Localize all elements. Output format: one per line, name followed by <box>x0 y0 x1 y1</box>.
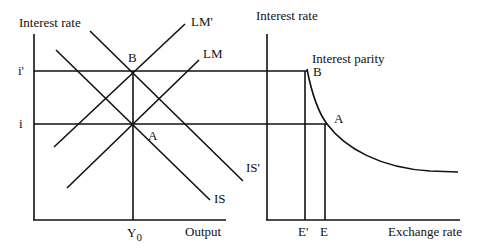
lm-prime-curve <box>54 24 185 147</box>
tick-i: i <box>19 116 23 131</box>
is-prime-label: IS' <box>246 160 260 175</box>
point-b-right: B <box>313 64 322 79</box>
interest-parity-curve <box>307 69 458 172</box>
interest-parity-label: Interest parity <box>312 51 385 66</box>
tick-e: E <box>320 224 328 239</box>
lm-prime-label: LM' <box>191 14 213 29</box>
tick-i-prime: i' <box>18 63 24 78</box>
tick-y0: Y0 <box>127 225 142 243</box>
is-lm-interest-parity-diagram: Interest rate Output i' i Y0 LM' LM IS' … <box>0 0 478 251</box>
left-y-axis-label: Interest rate <box>19 15 81 30</box>
point-b-left: B <box>128 50 137 65</box>
right-x-axis-label: Exchange rate <box>388 224 462 239</box>
right-y-axis-label: Interest rate <box>256 8 318 23</box>
point-a-right: A <box>334 111 344 126</box>
lm-label: LM <box>203 46 223 61</box>
tick-e-prime: E' <box>298 224 308 239</box>
is-label: IS <box>214 191 226 206</box>
left-x-axis-label: Output <box>185 224 222 239</box>
point-a-left: A <box>148 128 158 143</box>
